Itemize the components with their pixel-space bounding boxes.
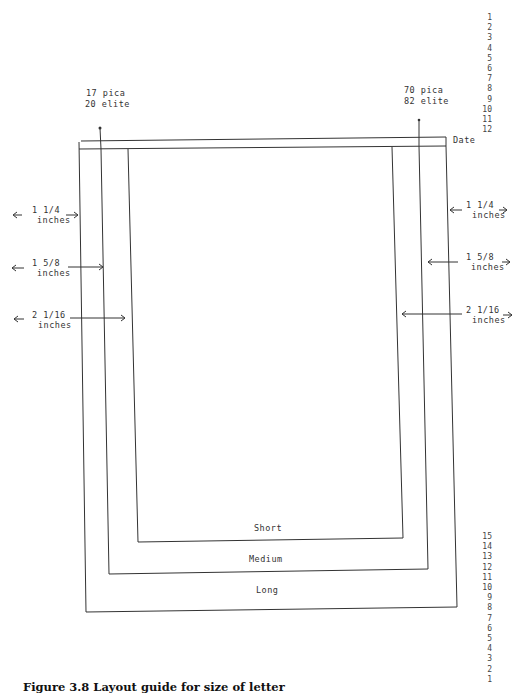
line-number: 2 xyxy=(478,665,492,675)
line-number: 6 xyxy=(478,64,492,74)
date-line-bottom xyxy=(79,146,446,149)
right-marker-line2: 82 elite xyxy=(404,96,449,106)
line-number: 4 xyxy=(478,44,492,54)
short-label: Short xyxy=(254,523,282,533)
right-margin-2-unit: inches xyxy=(471,262,505,272)
line-number: 4 xyxy=(478,644,492,654)
line-number: 9 xyxy=(478,95,492,105)
line-number: 11 xyxy=(478,115,492,125)
line-number: 11 xyxy=(478,573,492,583)
short-box xyxy=(128,147,403,542)
line-number: 9 xyxy=(478,593,492,603)
bottom-line-numbers: 15 14 13 12 11 10 9 8 7 6 5 4 3 2 1 xyxy=(478,532,492,685)
right-margin-3-unit: inches xyxy=(472,315,506,325)
arrow-right-in-1 xyxy=(450,207,462,213)
long-label: Long xyxy=(256,585,278,595)
line-number: 10 xyxy=(478,583,492,593)
medium-box xyxy=(101,146,428,574)
arrow-right-in-3 xyxy=(402,311,462,317)
left-margin-2-unit: inches xyxy=(37,268,71,278)
line-number: 12 xyxy=(478,125,492,135)
medium-label: Medium xyxy=(249,554,283,564)
right-margin-1-value: 1 1/4 xyxy=(466,200,494,210)
line-number: 3 xyxy=(478,654,492,664)
long-box xyxy=(79,142,457,612)
left-marker-line1: 17 pica xyxy=(86,88,125,98)
date-line-top xyxy=(81,137,446,141)
figure-caption: Figure 3.8 Layout guide for size of lett… xyxy=(23,680,285,694)
line-number: 1 xyxy=(478,675,492,685)
line-number: 15 xyxy=(478,532,492,542)
left-margin-2-value: 1 5/8 xyxy=(32,258,60,268)
line-number: 3 xyxy=(478,33,492,43)
line-number: 12 xyxy=(478,563,492,573)
arrow-right-in-2 xyxy=(428,259,458,265)
arrow-left-out-2 xyxy=(12,265,24,271)
line-number: 5 xyxy=(478,634,492,644)
line-number: 6 xyxy=(478,624,492,634)
line-number: 2 xyxy=(478,23,492,33)
line-number: 8 xyxy=(478,84,492,94)
line-number: 1 xyxy=(478,13,492,23)
left-margin-3-value: 2 1/16 xyxy=(32,310,66,320)
line-number: 10 xyxy=(478,105,492,115)
line-number: 8 xyxy=(478,603,492,613)
date-label: Date xyxy=(453,135,475,145)
right-margin-1-unit: inches xyxy=(472,210,506,220)
line-number: 7 xyxy=(478,614,492,624)
arrow-left-in-2 xyxy=(68,264,103,270)
left-margin-1-unit: inches xyxy=(37,215,71,225)
line-number: 7 xyxy=(478,74,492,84)
arrow-left-out-3 xyxy=(14,316,24,322)
line-number: 14 xyxy=(478,542,492,552)
left-margin-3-unit: inches xyxy=(38,320,72,330)
line-number: 5 xyxy=(478,54,492,64)
left-margin-1-value: 1 1/4 xyxy=(32,205,60,215)
left-pica-marker xyxy=(100,128,101,149)
right-margin-2-value: 1 5/8 xyxy=(466,252,494,262)
top-line-numbers: 1 2 3 4 5 6 7 8 9 10 11 12 xyxy=(478,13,492,135)
arrow-left-out-1 xyxy=(13,212,22,218)
line-number: 13 xyxy=(478,552,492,562)
arrow-left-in-3 xyxy=(70,315,125,321)
left-marker-line2: 20 elite xyxy=(85,99,130,109)
right-marker-line1: 70 pica xyxy=(404,85,443,95)
right-margin-3-value: 2 1/16 xyxy=(466,305,500,315)
